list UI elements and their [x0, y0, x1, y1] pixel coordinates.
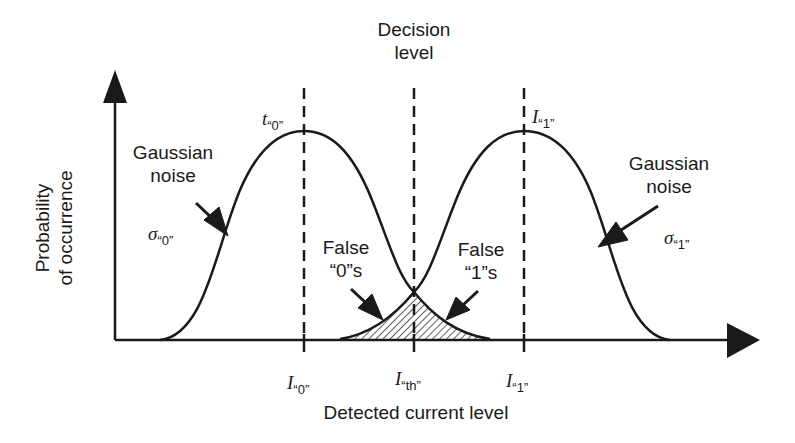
y-axis-label-line-1: Probability [31, 138, 54, 318]
false-zeros-arrow-icon [351, 289, 383, 320]
y-axis-label-line-2: of occurrence [54, 138, 77, 318]
false-ones-line-1: False [445, 238, 517, 261]
sigma0-arrow-icon [196, 203, 228, 236]
decision-level-title: Decision level [352, 18, 476, 64]
left-noise-line-1: Gaussian [118, 141, 228, 164]
pointer-arrows [196, 203, 658, 320]
false-zeros-line-1: False [310, 236, 382, 259]
sigma1-subscript: “1” [673, 237, 689, 252]
right-noise-label: Gaussian noise [614, 152, 724, 198]
y-axis-label: Probability of occurrence [31, 138, 77, 318]
x-axis-label: Detected current level [300, 401, 532, 424]
right-peak-subscript: “1” [538, 116, 554, 131]
right-noise-line-2: noise [614, 175, 724, 198]
false-zeros-line-2: “0”s [310, 259, 382, 282]
tick-label-ith: I“th” [395, 368, 421, 393]
left-peak-subscript: “0” [267, 118, 283, 133]
sigma0-subscript: “0” [157, 233, 173, 248]
left-peak-label: t“0” [262, 108, 283, 133]
y-axis [103, 70, 127, 340]
false-ones-label: False “1”s [445, 238, 517, 284]
sigma1-symbol: σ [664, 227, 673, 248]
false-ones-line-2: “1”s [445, 261, 517, 284]
tick-label-i1: I“1” [506, 370, 528, 395]
false-zeros-label: False “0”s [310, 236, 382, 282]
tick-i1-subscript: “1” [512, 380, 528, 395]
tick-ith-subscript: “th” [401, 378, 421, 393]
sigma0-symbol: σ [148, 223, 157, 244]
left-noise-label: Gaussian noise [118, 141, 228, 187]
title-line-1: Decision [352, 18, 476, 41]
title-line-2: level [352, 41, 476, 64]
sigma1-arrow-icon [598, 206, 658, 247]
x-axis-arrowhead-icon [727, 323, 760, 358]
y-axis-arrowhead-icon [103, 70, 127, 103]
left-noise-line-2: noise [118, 164, 228, 187]
sigma1-label: σ“1” [664, 227, 689, 252]
tick-label-i0: I“0” [287, 372, 309, 397]
right-peak-label: I“1” [532, 106, 554, 131]
tick-i0-subscript: “0” [293, 382, 309, 397]
right-noise-line-1: Gaussian [614, 152, 724, 175]
false-ones-arrow-icon [446, 291, 478, 320]
sigma0-label: σ“0” [148, 223, 173, 248]
